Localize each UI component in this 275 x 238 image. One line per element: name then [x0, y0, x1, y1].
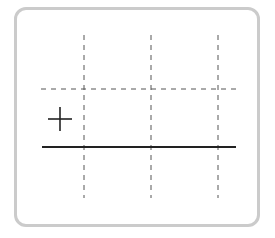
grid-canvas [0, 0, 275, 238]
plus-icon [48, 107, 72, 131]
dashed-grid [41, 35, 236, 198]
